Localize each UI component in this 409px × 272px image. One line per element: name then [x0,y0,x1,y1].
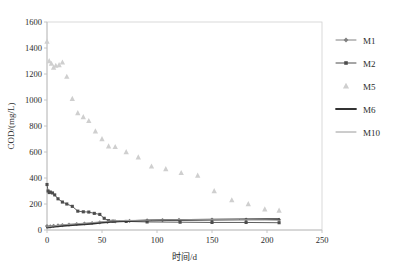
data-point-marker [60,59,65,64]
legend-item-m6[interactable]: M6 [336,105,376,115]
data-point-marker [81,114,86,119]
y-tick-label: 1000 [25,95,42,105]
x-tick-label: 100 [151,235,164,245]
data-point-marker [106,143,111,148]
data-point-marker [70,96,75,101]
legend-item-m2[interactable]: M2 [336,59,376,69]
data-point-marker [53,193,56,196]
data-point-marker [71,205,74,208]
data-point-marker [124,149,129,154]
y-tick-label: 1600 [25,17,42,27]
y-tick-label: 600 [29,147,42,157]
data-point-marker [113,144,118,149]
series-m5 [44,39,281,213]
data-point-marker [246,201,251,206]
legend-item-m5[interactable]: M5 [343,82,376,92]
y-axis-title: COD/(mg/L) [6,103,16,150]
legend-item-m10[interactable]: M10 [336,128,381,138]
data-point-marker [212,188,217,193]
y-tick-label: 200 [29,199,42,209]
y-tick-label: 800 [29,121,42,131]
data-point-marker [44,39,49,44]
x-tick-label: 250 [316,235,329,245]
data-point-marker [86,118,91,123]
x-axis-title: 时间/d [172,251,198,262]
data-point-marker [56,197,59,200]
y-tick-label: 1200 [25,69,42,79]
x-tick-label: 50 [98,235,107,245]
chart-legend: M1M2M5M6M10 [336,36,381,138]
data-point-marker [163,166,168,171]
data-point-marker [82,210,85,213]
legend-label-m5: M5 [363,82,376,92]
data-point-marker [98,213,101,216]
data-point-marker [103,217,106,220]
data-point-marker [61,201,64,204]
plot-area-border [47,22,322,230]
data-point-marker [262,206,267,211]
data-point-marker [75,110,80,115]
data-point-marker [136,154,141,159]
x-tick-label: 200 [261,235,274,245]
legend-marker-m1 [344,38,349,43]
data-point-marker [93,212,96,215]
data-point-marker [245,221,248,224]
legend-label-m10: M10 [363,128,381,138]
data-point-marker [149,163,154,168]
legend-marker-m2 [344,61,348,65]
data-point-marker [99,136,104,141]
legend-item-m1[interactable]: M1 [336,36,376,46]
y-tick-label: 1400 [25,43,42,53]
cod-time-scatter-chart: 0200400600800100012001400160005010015020… [0,0,409,272]
data-point-marker [93,128,98,133]
data-point-marker [87,211,90,214]
data-point-marker [179,221,182,224]
data-point-marker [45,183,48,186]
data-point-marker [278,221,281,224]
x-tick-label: 150 [206,235,219,245]
legend-marker-m5 [343,83,349,89]
data-point-marker [64,74,69,79]
legend-label-m6: M6 [363,105,376,115]
legend-label-m1: M1 [363,36,376,46]
data-point-marker [65,202,68,205]
data-point-marker [276,208,281,213]
series-line-m2 [47,185,279,223]
data-point-marker [179,170,184,175]
x-tick-label: 0 [45,235,49,245]
series-m2 [45,183,280,224]
y-tick-label: 0 [38,225,42,235]
data-point-marker [76,210,79,213]
data-point-marker [229,197,234,202]
data-point-marker [210,221,213,224]
data-point-marker [195,173,200,178]
y-tick-label: 400 [29,173,42,183]
chart-figure: 0200400600800100012001400160005010015020… [0,0,409,272]
legend-label-m2: M2 [363,59,376,69]
